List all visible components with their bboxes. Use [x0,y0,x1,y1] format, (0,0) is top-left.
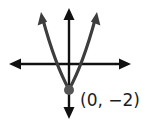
x-axis-right-arrow-icon [119,59,131,70]
parabola-graph-figure: (0, −2) [0,0,146,124]
y-axis-bottom-arrow-icon [64,107,75,119]
parabola-right-arm-arrow-icon [91,12,101,25]
vertex-coordinate-label: (0, −2) [80,90,140,110]
y-axis-top-arrow-icon [64,8,75,20]
vertex-point-marker [64,85,74,95]
x-axis-left-arrow-icon [9,59,21,70]
parabola-left-arm-arrow-icon [38,12,48,25]
